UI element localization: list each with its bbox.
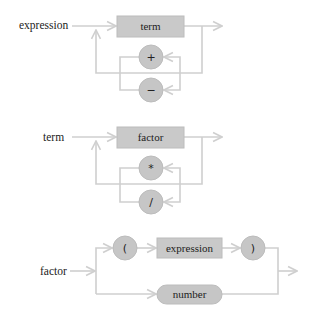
nonterminal-term-label: term: [140, 20, 161, 32]
nonterminal-expression-label: expression: [166, 242, 214, 254]
operator-plus-label: +: [146, 51, 155, 64]
operator-divide-label: /: [149, 196, 153, 209]
terminal-open-paren-label: (: [123, 242, 127, 255]
rule-factor: factor ( expression ) number: [40, 236, 297, 304]
operator-multiply-label: *: [148, 162, 154, 175]
operator-minus-label: −: [146, 84, 155, 97]
rule-label-term: term: [43, 131, 64, 143]
terminal-close-paren-label: ): [251, 242, 255, 255]
rule-expression: expression term + −: [19, 16, 222, 102]
rule-term: term factor * /: [43, 127, 222, 214]
nonterminal-factor-label: factor: [138, 131, 164, 143]
rule-label-factor: factor: [40, 265, 67, 277]
syntax-diagram: expression term + − term factor * /: [0, 0, 312, 316]
rule-label-expression: expression: [19, 19, 68, 32]
terminal-number-label: number: [173, 288, 207, 300]
